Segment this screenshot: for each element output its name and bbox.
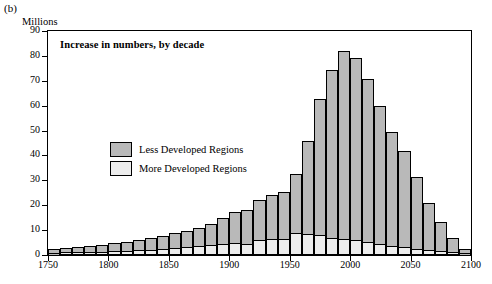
bar bbox=[302, 141, 314, 255]
legend-swatch-less-developed bbox=[110, 142, 132, 157]
y-axis-tick-label: 50 bbox=[14, 124, 40, 135]
bar bbox=[386, 132, 398, 255]
x-axis-tick-mark bbox=[290, 256, 291, 261]
y-axis-tick-mark bbox=[42, 131, 47, 132]
y-axis-tick-label: 70 bbox=[14, 74, 40, 85]
bar-segment-more-developed bbox=[351, 240, 361, 254]
bar-segment-less-developed bbox=[327, 71, 337, 240]
bar-segment-less-developed bbox=[267, 196, 277, 241]
x-axis-tick-mark bbox=[471, 256, 472, 261]
bar-segment-more-developed bbox=[424, 250, 434, 254]
bar bbox=[121, 242, 133, 255]
bar bbox=[96, 245, 108, 255]
bar-segment-more-developed bbox=[387, 246, 397, 254]
bar-segment-less-developed bbox=[424, 204, 434, 253]
legend-label-less-developed: Less Developed Regions bbox=[139, 144, 243, 155]
bar bbox=[314, 99, 326, 255]
bar-segment-more-developed bbox=[85, 252, 95, 254]
bar-segment-more-developed bbox=[291, 233, 301, 254]
bar-segment-less-developed bbox=[436, 223, 446, 253]
y-axis-tick-mark bbox=[42, 180, 47, 181]
x-axis-tick-mark bbox=[411, 256, 412, 261]
bar-segment-more-developed bbox=[97, 252, 107, 254]
bar-segment-more-developed bbox=[194, 246, 204, 254]
y-axis-tick-label: 20 bbox=[14, 198, 40, 209]
bar-segment-more-developed bbox=[279, 239, 289, 254]
bar-segment-less-developed bbox=[291, 175, 301, 235]
chart-legend: Less Developed Regions More Developed Re… bbox=[110, 141, 247, 179]
bar-segment-more-developed bbox=[182, 247, 192, 254]
bar-segment-less-developed bbox=[303, 142, 313, 237]
bar bbox=[205, 224, 217, 255]
bar bbox=[145, 238, 157, 255]
bar bbox=[350, 58, 362, 255]
bar-segment-more-developed bbox=[460, 253, 470, 254]
panel-label: (b) bbox=[4, 2, 17, 14]
bar-segment-more-developed bbox=[267, 239, 277, 254]
bar-segment-more-developed bbox=[134, 250, 144, 254]
y-axis-tick-mark bbox=[42, 56, 47, 57]
bar bbox=[398, 151, 410, 255]
bar bbox=[241, 210, 253, 255]
y-axis-tick-label: 30 bbox=[14, 173, 40, 184]
bar-segment-less-developed bbox=[412, 178, 422, 250]
bar-segment-more-developed bbox=[73, 252, 83, 254]
bar bbox=[435, 222, 447, 255]
bar-segment-less-developed bbox=[206, 225, 216, 247]
bar bbox=[411, 177, 423, 255]
bar-segment-less-developed bbox=[387, 133, 397, 247]
bar-segment-more-developed bbox=[327, 238, 337, 254]
x-axis-tick-mark bbox=[350, 256, 351, 261]
bar-segment-more-developed bbox=[339, 239, 349, 254]
bar-segment-less-developed bbox=[254, 201, 264, 242]
bar-segment-more-developed bbox=[448, 252, 458, 254]
bar bbox=[84, 246, 96, 255]
x-axis-tick-mark bbox=[229, 256, 230, 261]
bar-segment-more-developed bbox=[49, 253, 59, 254]
bar bbox=[229, 212, 241, 255]
chart-plot-area: Increase in numbers, by decade Less Deve… bbox=[47, 30, 472, 256]
bar-segment-more-developed bbox=[375, 244, 385, 254]
bar bbox=[72, 247, 84, 255]
legend-item-more-developed: More Developed Regions bbox=[110, 160, 247, 177]
bar bbox=[459, 249, 471, 255]
bar-segment-more-developed bbox=[399, 247, 409, 254]
y-axis-tick-mark bbox=[42, 255, 47, 256]
y-axis-tick-label: 40 bbox=[14, 148, 40, 159]
bar bbox=[278, 192, 290, 255]
x-axis-tick-mark bbox=[108, 256, 109, 261]
y-axis-tick-mark bbox=[42, 106, 47, 107]
bar-segment-less-developed bbox=[399, 152, 409, 249]
bar-segment-less-developed bbox=[218, 219, 228, 245]
bar-segment-less-developed bbox=[279, 193, 289, 242]
y-axis-tick-label: 90 bbox=[14, 24, 40, 35]
y-axis-tick-label: 60 bbox=[14, 99, 40, 110]
bar bbox=[447, 238, 459, 255]
bar-segment-more-developed bbox=[218, 244, 228, 254]
bar-segment-less-developed bbox=[315, 100, 325, 237]
bar bbox=[338, 51, 350, 255]
y-axis-tick-mark bbox=[42, 31, 47, 32]
bar bbox=[423, 203, 435, 256]
bar bbox=[48, 249, 60, 255]
bar bbox=[253, 200, 265, 255]
bar-segment-more-developed bbox=[146, 250, 156, 254]
bar-segment-less-developed bbox=[339, 52, 349, 241]
y-axis-tick-mark bbox=[42, 230, 47, 231]
legend-item-less-developed: Less Developed Regions bbox=[110, 141, 247, 158]
bar-segment-less-developed bbox=[351, 59, 361, 242]
bar bbox=[157, 236, 169, 255]
bar-segment-less-developed bbox=[230, 213, 240, 244]
y-axis-tick-label: 80 bbox=[14, 49, 40, 60]
bar-segment-more-developed bbox=[436, 251, 446, 254]
bar bbox=[169, 233, 181, 255]
bar-segment-more-developed bbox=[230, 243, 240, 254]
y-axis-tick-mark bbox=[42, 155, 47, 156]
bar-segment-more-developed bbox=[109, 251, 119, 254]
bar bbox=[217, 218, 229, 255]
bar-segment-more-developed bbox=[122, 251, 132, 254]
bar-segment-more-developed bbox=[303, 234, 313, 254]
y-axis-tick-mark bbox=[42, 205, 47, 206]
bar bbox=[266, 195, 278, 255]
bar bbox=[374, 106, 386, 255]
